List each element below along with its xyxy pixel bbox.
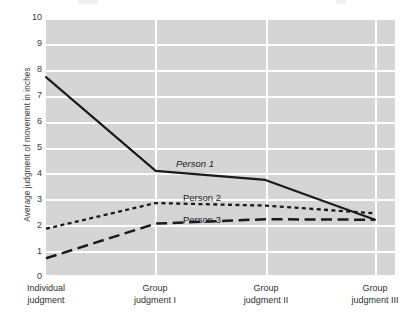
x-tick-group-judgment-ii-line2: judgment II bbox=[211, 295, 321, 307]
x-tick-group-judgment-iii: Group judgment III bbox=[320, 283, 411, 306]
x-tick-group-judgment-i: Group judgment I bbox=[100, 283, 210, 306]
x-tick-group-judgment-ii-line1: Group bbox=[253, 283, 278, 293]
y-tick-6: 6 bbox=[26, 117, 42, 126]
x-tick-group-judgment-i-line2: judgment I bbox=[100, 295, 210, 307]
y-tick-10: 10 bbox=[26, 13, 42, 22]
x-tick-group-judgment-ii: Group judgment II bbox=[211, 283, 321, 306]
series-label-person-1: Person 1 bbox=[176, 158, 214, 169]
x-tick-group-judgment-iii-line2: judgment III bbox=[320, 295, 411, 307]
x-tick-individual-judgment-line1: Individual bbox=[27, 283, 65, 293]
series-line-person-3 bbox=[46, 219, 375, 258]
scan-artifact-left bbox=[78, 0, 98, 4]
y-tick-8: 8 bbox=[26, 65, 42, 74]
y-tick-3: 3 bbox=[26, 195, 42, 204]
series-label-person-2: Person 2 bbox=[183, 192, 221, 203]
y-tick-4: 4 bbox=[26, 169, 42, 178]
series-layer bbox=[46, 18, 395, 277]
x-tick-individual-judgment-line2: judgment bbox=[0, 295, 101, 307]
x-tick-individual-judgment: Individual judgment bbox=[0, 283, 101, 306]
y-tick-0: 0 bbox=[26, 272, 42, 281]
x-tick-group-judgment-iii-line1: Group bbox=[362, 283, 387, 293]
y-tick-1: 1 bbox=[26, 247, 42, 256]
scan-artifact-right bbox=[336, 0, 346, 4]
y-tick-7: 7 bbox=[26, 91, 42, 100]
y-tick-9: 9 bbox=[26, 39, 42, 48]
y-tick-2: 2 bbox=[26, 221, 42, 230]
series-label-person-3: Person 3 bbox=[183, 214, 221, 225]
x-tick-group-judgment-i-line1: Group bbox=[142, 283, 167, 293]
line-chart: Average judgment of movement in inches 1… bbox=[0, 0, 411, 321]
y-tick-5: 5 bbox=[26, 143, 42, 152]
